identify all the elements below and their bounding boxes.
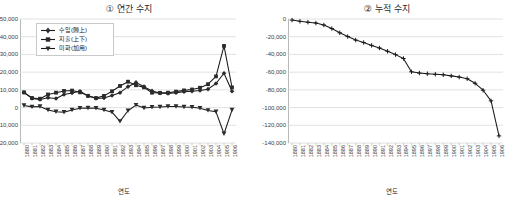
legend-label-balance: 미화(加用) <box>59 44 87 53</box>
x-tick-label: 1900 <box>184 145 190 157</box>
x-tick-label: 1902 <box>467 145 473 157</box>
x-tick-label: 1883 <box>48 145 54 157</box>
x-tick-label: 1886 <box>340 145 346 157</box>
x-tick-label: 1881 <box>300 145 306 157</box>
legend-label-income: 수입(賻上) <box>59 26 87 35</box>
legend-item-balance: 미화(加用) <box>40 44 110 53</box>
x-tick-label: 1891 <box>380 145 386 157</box>
x-tick-label: 1886 <box>72 145 78 157</box>
x-tick-label: 1884 <box>56 145 62 157</box>
x-tick-label: 1888 <box>356 145 362 157</box>
x-tick-label: 1880 <box>292 145 298 157</box>
y-tick-label: 50,000 <box>0 16 18 22</box>
x-tick-label: 1904 <box>216 145 222 157</box>
y-tick-label: 10,000 <box>0 87 18 93</box>
x-tick-label: 1889 <box>364 145 370 157</box>
x-tick-label: 1885 <box>332 145 338 157</box>
y-tick-label: 0 <box>283 16 286 22</box>
x-tick-label: 1896 <box>152 145 158 157</box>
annual-x-axis-label: 연도 <box>118 186 130 196</box>
legend-square-marker-icon <box>40 35 56 44</box>
x-tick-label: 1884 <box>324 145 330 157</box>
x-tick-label: 1899 <box>176 145 182 157</box>
x-tick-label: 1882 <box>40 145 46 157</box>
x-tick-label: 1887 <box>348 145 354 157</box>
x-tick-label: 1892 <box>388 145 394 157</box>
x-tick-label: 1892 <box>120 145 126 157</box>
y-tick-label: -20,000 <box>266 34 286 40</box>
legend-triangle-marker-icon <box>40 44 56 53</box>
x-tick-label: 1904 <box>483 145 489 157</box>
y-tick-label: -40,000 <box>266 51 286 57</box>
x-tick-label: 1894 <box>136 145 142 157</box>
x-tick-label: 1899 <box>443 145 449 157</box>
x-tick-label: 1896 <box>419 145 425 157</box>
x-tick-label: 1881 <box>32 145 38 157</box>
x-tick-label: 1888 <box>88 145 94 157</box>
x-tick-label: 1885 <box>64 145 70 157</box>
y-tick-label: 20,000 <box>0 69 18 75</box>
cumulative-chart-title: ② 누적 수지 <box>258 2 516 15</box>
y-tick-label: 40,000 <box>0 34 18 40</box>
cumulative-plot-area <box>288 19 503 143</box>
x-tick-label: 1895 <box>144 145 150 157</box>
y-tick-label: -100,000 <box>262 105 286 111</box>
y-tick-label: -60,000 <box>266 69 286 75</box>
legend-diamond-marker-icon <box>40 26 56 35</box>
x-tick-label: 1882 <box>308 145 314 157</box>
x-tick-label: 1900 <box>451 145 457 157</box>
x-tick-label: 1906 <box>499 145 505 157</box>
x-tick-label: 1902 <box>200 145 206 157</box>
legend-item-expense: 지출(上下) <box>40 35 110 44</box>
y-tick-label: -10,000 <box>0 122 18 128</box>
x-tick-label: 1906 <box>232 145 238 157</box>
x-tick-label: 1893 <box>128 145 134 157</box>
x-tick-label: 1903 <box>475 145 481 157</box>
x-tick-label: 1895 <box>411 145 417 157</box>
x-tick-label: 1901 <box>459 145 465 157</box>
x-tick-label: 1898 <box>435 145 441 157</box>
y-tick-label: -140,000 <box>262 140 286 146</box>
x-tick-label: 1905 <box>224 145 230 157</box>
x-tick-label: 1893 <box>396 145 402 157</box>
x-tick-label: 1889 <box>96 145 102 157</box>
y-tick-label: -20,000 <box>0 140 18 146</box>
x-tick-label: 1901 <box>192 145 198 157</box>
x-tick-label: 1883 <box>316 145 322 157</box>
x-tick-label: 1880 <box>24 145 30 157</box>
annual-chart-legend: 수입(賻上) 지출(上下) 미화(加用) <box>36 23 114 56</box>
legend-label-expense: 지출(上下) <box>59 35 87 44</box>
x-tick-label: 1903 <box>208 145 214 157</box>
cumulative-x-axis-label: 연도 <box>386 186 398 196</box>
y-tick-label: 30,000 <box>0 51 18 57</box>
y-tick-label: -120,000 <box>262 122 286 128</box>
annual-chart-title: ① 연간 수지 <box>0 2 258 15</box>
x-tick-label: 1905 <box>491 145 497 157</box>
x-tick-label: 1887 <box>80 145 86 157</box>
cumulative-series-canvas <box>288 19 503 143</box>
x-tick-label: 1898 <box>168 145 174 157</box>
x-tick-label: 1897 <box>160 145 166 157</box>
x-tick-label: 1890 <box>372 145 378 157</box>
x-tick-label: 1894 <box>403 145 409 157</box>
y-tick-label: 0 <box>15 105 18 111</box>
x-tick-label: 1890 <box>104 145 110 157</box>
legend-item-income: 수입(賻上) <box>40 26 110 35</box>
x-tick-label: 1897 <box>427 145 433 157</box>
x-tick-label: 1891 <box>112 145 118 157</box>
y-tick-label: -80,000 <box>266 87 286 93</box>
annual-balance-chart-panel: ① 연간 수지 50,00040,00030,00020,00010,0000-… <box>0 0 258 204</box>
